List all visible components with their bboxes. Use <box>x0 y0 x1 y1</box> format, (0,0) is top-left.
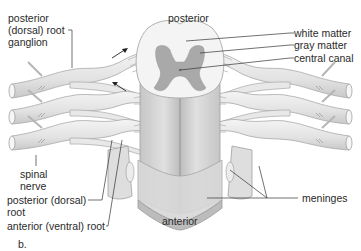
right-spinal-nerves <box>208 50 352 150</box>
label-anterior-root: anterior (ventral) root <box>7 220 105 232</box>
nerve-right-2-cut-end <box>346 110 352 124</box>
nerve-right-1-cut-end <box>346 84 352 98</box>
nerve-right-3-cut-end <box>346 136 352 150</box>
label-meninges: meninges <box>302 192 348 204</box>
panel-label: b. <box>18 238 27 250</box>
nerve-left-3-cut-end <box>9 136 15 150</box>
nerve-left-3 <box>12 119 150 150</box>
label-spinal-nerve: spinal nerve <box>20 168 47 192</box>
label-gray-matter: gray matter <box>294 39 347 51</box>
label-posterior-root-ganglion: posterior (dorsal) root ganglion <box>8 12 65 48</box>
label-posterior: posterior <box>168 12 209 24</box>
left-spinal-nerves <box>9 50 152 156</box>
nerve-left-1-cut-end <box>9 84 15 98</box>
label-anterior: anterior <box>162 215 198 227</box>
nerve-right-3 <box>210 119 349 150</box>
nerve-left-2-cut-end <box>9 110 15 124</box>
nerve-left-3-lower-root <box>70 138 145 156</box>
label-posterior-root: posterior (dorsal) root <box>7 194 86 218</box>
white-matter <box>136 21 224 98</box>
label-central-canal: central canal <box>294 52 354 64</box>
leader-ganglion <box>68 30 72 68</box>
label-white-matter: white matter <box>294 27 351 39</box>
